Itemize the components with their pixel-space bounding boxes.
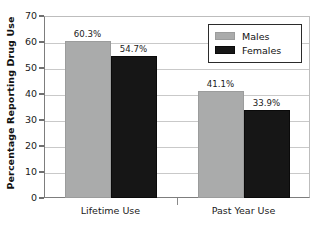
bar-females-lifetime-use — [111, 56, 157, 198]
y-tick-label: 70 — [0, 10, 44, 22]
y-tick-label: 10 — [0, 166, 44, 178]
legend-swatch-females-icon — [215, 46, 235, 54]
bar-value-label: 33.9% — [238, 98, 296, 108]
bar-value-label: 41.1% — [192, 79, 250, 89]
y-tick-label: 20 — [0, 140, 44, 152]
y-tick-label: 50 — [0, 62, 44, 74]
legend-item-females: Females — [215, 43, 295, 57]
bar-value-label: 54.7% — [105, 44, 163, 54]
legend-item-males: Males — [215, 29, 295, 43]
bar-value-label: 60.3% — [59, 29, 117, 39]
y-tick-label: 60 — [0, 36, 44, 48]
chart-legend: Males Females — [208, 24, 302, 63]
bar-chart: Percentage Reporting Drug Use 0102030405… — [0, 0, 324, 225]
y-tick-label: 40 — [0, 88, 44, 100]
legend-label-males: Males — [242, 31, 269, 42]
x-tick-label: Past Year Use — [177, 205, 310, 216]
legend-swatch-males-icon — [215, 32, 235, 40]
y-tick-label: 0 — [0, 192, 44, 204]
legend-label-females: Females — [242, 45, 281, 56]
y-tick-label: 30 — [0, 114, 44, 126]
x-axis-separator — [177, 198, 178, 205]
x-tick-label: Lifetime Use — [44, 205, 177, 216]
bar-females-past-year-use — [244, 110, 290, 198]
bar-males-lifetime-use — [65, 41, 111, 198]
